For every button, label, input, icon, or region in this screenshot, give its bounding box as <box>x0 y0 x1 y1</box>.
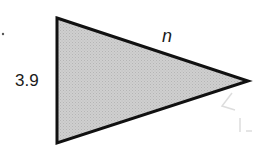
stray-mark <box>2 33 4 35</box>
triangle-shape <box>57 18 248 143</box>
upper-side-label: n <box>162 26 172 46</box>
faint-mark <box>222 93 252 132</box>
left-side-label: 3.9 <box>15 71 39 90</box>
triangle-diagram: 3.9 n <box>0 0 267 160</box>
